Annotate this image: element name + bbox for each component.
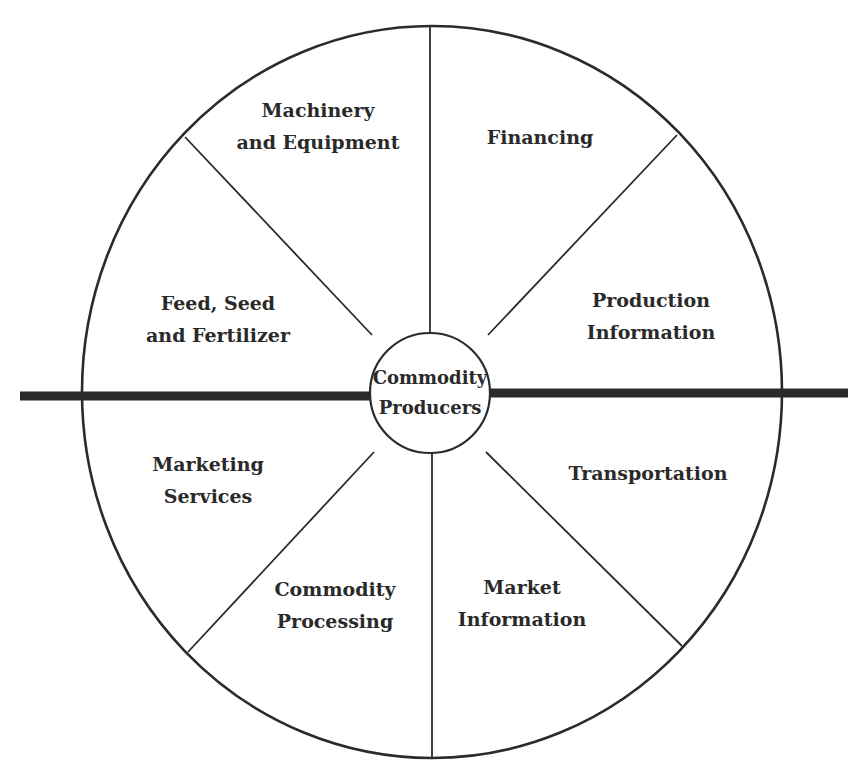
segment-label-line1: Transportation xyxy=(568,457,727,489)
segment-label-line2: and Fertilizer xyxy=(146,319,290,351)
segment-machinery-equipment: Machinery and Equipment xyxy=(237,94,400,158)
segment-label-line2: Services xyxy=(152,480,264,512)
segment-production-information: Production Information xyxy=(587,284,715,348)
center-label-line1: Commodity xyxy=(373,363,488,393)
commodity-producers-wheel-diagram: Commodity Producers Machinery and Equipm… xyxy=(0,0,864,777)
center-label-line2: Producers xyxy=(373,393,488,423)
segment-feed-seed-fertilizer: Feed, Seed and Fertilizer xyxy=(146,287,290,351)
segment-label-line2: Processing xyxy=(275,605,396,637)
segment-label-line2: Information xyxy=(587,316,715,348)
segment-label-line2: and Equipment xyxy=(237,126,400,158)
segment-label-line1: Market xyxy=(458,571,586,603)
segment-marketing-services: Marketing Services xyxy=(152,448,264,512)
segment-market-information: Market Information xyxy=(458,571,586,635)
segment-label-line1: Feed, Seed xyxy=(146,287,290,319)
segment-financing: Financing xyxy=(487,121,594,153)
segment-commodity-processing: Commodity Processing xyxy=(275,573,396,637)
segment-label-line1: Marketing xyxy=(152,448,264,480)
segment-label-line1: Financing xyxy=(487,121,594,153)
segment-transportation: Transportation xyxy=(568,457,727,489)
segment-label-line2: Information xyxy=(458,603,586,635)
center-label: Commodity Producers xyxy=(373,363,488,423)
segment-label-line1: Production xyxy=(587,284,715,316)
segment-label-line1: Commodity xyxy=(275,573,396,605)
segment-label-line1: Machinery xyxy=(237,94,400,126)
